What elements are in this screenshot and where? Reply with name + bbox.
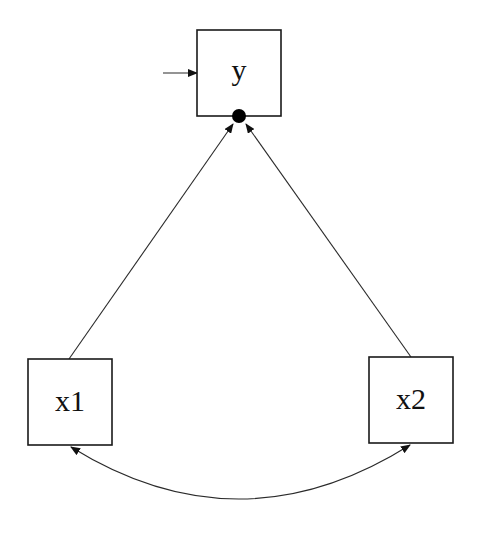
node-x2[interactable]: x2 [369, 357, 453, 443]
node-x1[interactable]: x1 [28, 359, 112, 445]
path-x1-to-y [69, 124, 233, 359]
intercept-dot [232, 109, 246, 123]
covariance-x1-x2 [71, 445, 410, 499]
node-y[interactable]: y [197, 30, 281, 123]
path-x2-to-y [246, 124, 411, 357]
path-diagram: y x1 x2 [0, 0, 480, 533]
node-x2-label: x2 [396, 382, 426, 415]
node-x1-label: x1 [55, 384, 85, 417]
node-y-label: y [232, 53, 247, 86]
